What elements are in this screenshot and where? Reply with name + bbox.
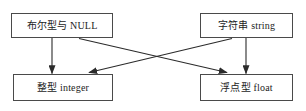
- node-boolean-null[interactable]: 布尔型与 NULL: [11, 13, 113, 38]
- type-conversion-diagram: 布尔型与 NULL 字符串 string 整型 integer 浮点型 floa…: [0, 0, 306, 111]
- node-string-label: 字符串 string: [218, 21, 275, 31]
- node-string[interactable]: 字符串 string: [200, 13, 293, 38]
- node-boolean-null-label: 布尔型与 NULL: [27, 21, 98, 31]
- node-float[interactable]: 浮点型 float: [200, 74, 293, 101]
- edge-string-to-integer: [89, 39, 232, 73]
- node-float-label: 浮点型 float: [220, 83, 273, 93]
- node-integer[interactable]: 整型 integer: [13, 74, 113, 101]
- node-integer-label: 整型 integer: [37, 83, 89, 93]
- edge-boolean-to-float: [79, 39, 227, 73]
